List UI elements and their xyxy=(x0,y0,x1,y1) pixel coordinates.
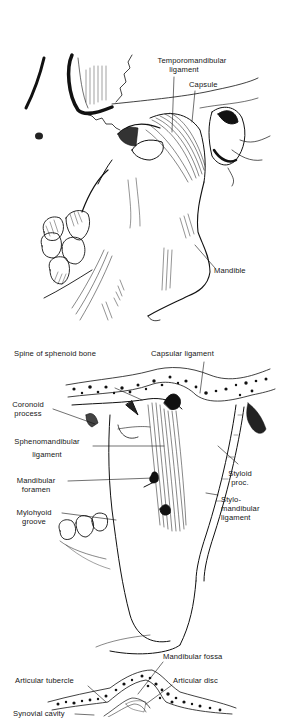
label-line-2: foramen xyxy=(8,485,64,494)
label-line-2: groove xyxy=(10,517,58,526)
label-line-1: Coronoid xyxy=(6,400,50,409)
label-articular-tubercle: Articular tubercle xyxy=(15,676,74,685)
label-sphenomandibular-ligament: Sphenomandibular ligament xyxy=(8,437,86,459)
label-line-1: Stylo- xyxy=(221,495,260,504)
label-line-1: Temporomandibular xyxy=(152,56,232,65)
panel-sagittal-section: Mandibular fossa Articular tubercle Arti… xyxy=(0,640,285,717)
label-line-2: process xyxy=(6,409,50,418)
label-line-3: ligament xyxy=(221,513,260,522)
label-line-1: Mylohyoid xyxy=(10,508,58,517)
label-synovial-cavity: Synovial cavity xyxy=(13,709,65,718)
label-mandible: Mandible xyxy=(214,266,246,275)
label-styloid-process: Styloid proc. xyxy=(224,469,256,487)
label-articular-disc: Articular disc xyxy=(173,676,218,685)
label-line-2: ligament xyxy=(136,65,232,74)
label-mandibular-fossa: Mandibular fossa xyxy=(163,652,222,661)
label-capsule: Capsule xyxy=(189,80,218,89)
panel-medial-view: Spine of sphenoid bone Capsular ligament… xyxy=(0,345,285,660)
label-line-1: Mandibular xyxy=(8,476,64,485)
label-line-1: Sphenomandibular xyxy=(8,437,86,446)
label-line-2: proc. xyxy=(224,478,256,487)
label-line-2: ligament xyxy=(8,450,86,459)
label-coronoid-process: Coronoid process xyxy=(6,400,50,418)
label-spine-of-sphenoid-bone: Spine of sphenoid bone xyxy=(14,349,96,358)
lateral-view-illustration xyxy=(0,0,285,345)
label-line-2: mandibular xyxy=(221,504,260,513)
label-temporomandibular-ligament: Temporomandibular ligament xyxy=(152,56,232,74)
label-capsular-ligament: Capsular ligament xyxy=(151,349,214,358)
label-mandibular-foramen: Mandibular foramen xyxy=(8,476,64,494)
panel-lateral-view: Temporomandibular ligament Capsule Mandi… xyxy=(0,0,285,345)
label-mylohyoid-groove: Mylohyoid groove xyxy=(10,508,58,526)
label-line-1: Styloid xyxy=(224,469,256,478)
label-stylomandibular-ligament: Stylo- mandibular ligament xyxy=(221,495,260,522)
